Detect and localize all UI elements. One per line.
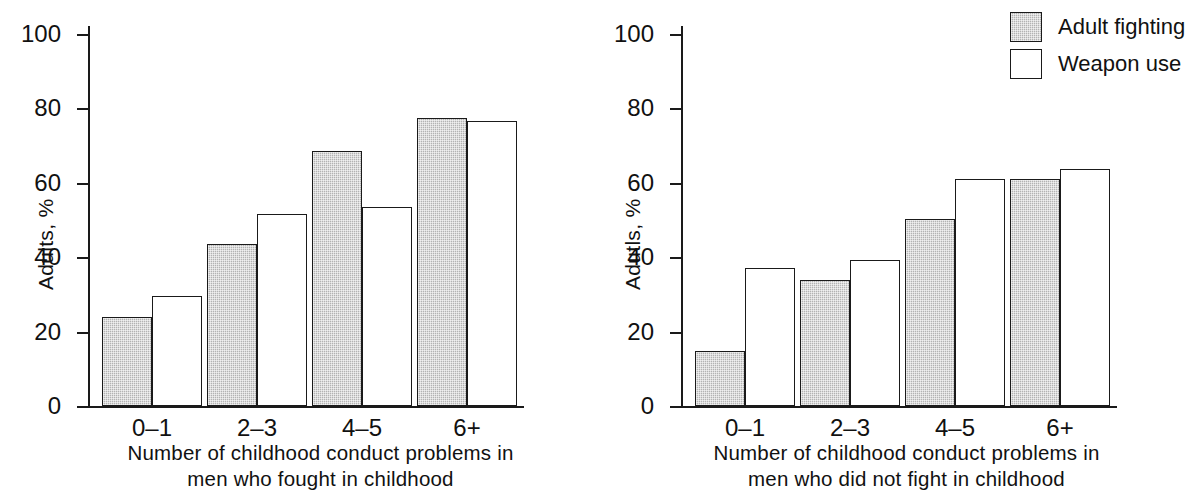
bar-right-3-weapon-use [1060, 169, 1110, 406]
y-tick-label-60-left: 60 [34, 171, 61, 195]
x-tick-label-left-2: 4–5 [312, 416, 412, 440]
legend-item-weapon-use: Weapon use [1010, 47, 1186, 81]
y-tick-label-40-left: 40 [34, 245, 61, 269]
y-tick-label-80-left: 80 [34, 96, 61, 120]
y-tick-0-right: 0 [670, 406, 681, 408]
y-tick-label-100-left: 100 [21, 22, 61, 46]
y-tick-80-right: 80 [670, 108, 681, 110]
bar-left-3-weapon-use [467, 121, 517, 406]
bar-left-2-weapon-use [362, 207, 412, 406]
bar-left-0-adult-fighting [102, 317, 152, 406]
x-tick-label-right-1: 2–3 [800, 416, 900, 440]
legend-swatch-open-icon [1010, 49, 1042, 79]
bar-group-left-1: 2–3 [207, 34, 307, 406]
legend-label-weapon-use: Weapon use [1058, 51, 1181, 77]
x-axis-line-left [88, 406, 524, 408]
y-tick-label-0-left: 0 [48, 394, 61, 418]
x-tick-label-right-3: 6+ [1010, 416, 1110, 440]
caption-left-line1: Number of childhood conduct problems in [48, 440, 593, 466]
x-tick-label-right-0: 0–1 [695, 416, 795, 440]
y-tick-20-right: 20 [670, 332, 681, 334]
y-tick-60-left: 60 [77, 183, 88, 185]
y-tick-100-right: 100 [670, 34, 681, 36]
y-tick-label-0-right: 0 [641, 394, 654, 418]
y-tick-label-20-left: 20 [34, 320, 61, 344]
bar-group-left-2: 4–5 [312, 34, 412, 406]
x-tick-label-left-3: 6+ [417, 416, 517, 440]
bar-left-0-weapon-use [152, 296, 202, 406]
bar-group-right-2: 4–5 [905, 34, 1005, 406]
legend-swatch-shaded-icon [1010, 12, 1042, 42]
bar-right-0-adult-fighting [695, 351, 745, 406]
y-tick-label-40-right: 40 [627, 245, 654, 269]
bar-left-1-adult-fighting [207, 244, 257, 406]
y-tick-60-right: 60 [670, 183, 681, 185]
caption-right: Number of childhood conduct problems in … [593, 440, 1186, 492]
y-tick-40-left: 40 [77, 257, 88, 259]
caption-right-line2: men who did not fight in childhood [627, 466, 1186, 492]
y-tick-0-left: 0 [77, 406, 88, 408]
y-tick-label-60-right: 60 [627, 171, 654, 195]
legend-item-adult-fighting: Adult fighting [1010, 10, 1186, 44]
bar-left-3-adult-fighting [417, 118, 467, 406]
bar-group-left-0: 0–1 [102, 34, 202, 406]
caption-right-line1: Number of childhood conduct problems in [627, 440, 1186, 466]
x-tick-label-right-2: 4–5 [905, 416, 1005, 440]
y-tick-40-right: 40 [670, 257, 681, 259]
plot-area-right: 0 20 40 60 80 100 0–1 [681, 34, 1111, 406]
y-axis-line-right [681, 26, 683, 406]
bar-right-0-weapon-use [745, 268, 795, 406]
x-tick-label-left-0: 0–1 [102, 416, 202, 440]
plot-area-left: 0 20 40 60 80 100 0–1 [88, 34, 518, 406]
legend-label-adult-fighting: Adult fighting [1058, 14, 1185, 40]
y-tick-100-left: 100 [77, 34, 88, 36]
caption-left-line2: men who fought in childhood [48, 466, 593, 492]
y-tick-80-left: 80 [77, 108, 88, 110]
y-tick-label-20-right: 20 [627, 320, 654, 344]
y-tick-label-100-right: 100 [614, 22, 654, 46]
bar-right-2-adult-fighting [905, 219, 955, 406]
y-tick-20-left: 20 [77, 332, 88, 334]
bar-right-1-weapon-use [850, 260, 900, 406]
bar-right-3-adult-fighting [1010, 179, 1060, 406]
bar-group-right-0: 0–1 [695, 34, 795, 406]
bar-group-right-1: 2–3 [800, 34, 900, 406]
x-tick-label-left-1: 2–3 [207, 416, 307, 440]
y-tick-label-80-right: 80 [627, 96, 654, 120]
figure-two-panel-bar-chart: Adults, % 0 20 40 60 80 100 [0, 0, 1186, 501]
bar-left-1-weapon-use [257, 214, 307, 406]
y-axis-line-left [88, 26, 90, 406]
bar-right-1-adult-fighting [800, 280, 850, 406]
x-axis-line-right [681, 406, 1117, 408]
legend: Adult fighting Weapon use [1010, 10, 1186, 84]
caption-left: Number of childhood conduct problems in … [0, 440, 593, 492]
bar-group-right-3: 6+ [1010, 34, 1110, 406]
bar-left-2-adult-fighting [312, 151, 362, 406]
bar-group-left-3: 6+ [417, 34, 517, 406]
bar-right-2-weapon-use [955, 179, 1005, 406]
panel-left: Adults, % 0 20 40 60 80 100 [0, 0, 593, 501]
